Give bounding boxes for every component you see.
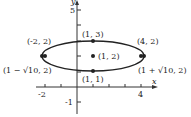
- center-point: [91, 54, 95, 58]
- label-focus-left: (-2, 2): [27, 37, 51, 46]
- label-focus-right: (4, 2): [137, 37, 159, 46]
- x-tick-neg2: -2: [38, 90, 46, 99]
- label-center: (1, 2): [98, 52, 120, 61]
- major-vertex-left: [40, 54, 44, 58]
- y-axis-arrow-icon: [75, 0, 79, 5]
- x-axis-label: x: [152, 77, 157, 86]
- label-minor-top: (1, 3): [82, 30, 104, 39]
- ellipse-diagram: 5 -1 -2 4 x y (1, 3) (1, 1) (1, 2) (-2, …: [0, 0, 191, 117]
- label-minor-bottom: (1, 1): [82, 75, 104, 84]
- y-ticks: [77, 10, 81, 102]
- y-tick-neg1: -1: [65, 98, 73, 107]
- diagram-canvas: 5 -1 -2 4 x y (1, 3) (1, 1) (1, 2) (-2, …: [0, 0, 191, 117]
- major-vertex-right: [142, 54, 146, 58]
- minor-vertex-bottom: [91, 69, 95, 73]
- y-axis-label: y: [70, 0, 76, 6]
- y-tick-5: 5: [70, 6, 75, 15]
- minor-vertex-top: [91, 39, 95, 43]
- label-vertex-right: (1 + √10, 2): [138, 66, 187, 75]
- label-vertex-left: (1 − √10, 2): [3, 66, 52, 75]
- x-tick-4: 4: [138, 90, 143, 99]
